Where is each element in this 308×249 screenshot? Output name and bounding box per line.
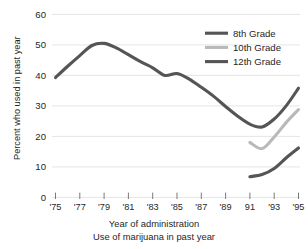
y-axis-ticks: 60 50 40 30 20 10 0 bbox=[35, 9, 46, 203]
x-axis-title: Year of administration bbox=[109, 218, 199, 229]
y-axis-title: Percent who used in past year bbox=[12, 36, 22, 160]
y-tick-label: 10 bbox=[35, 161, 46, 172]
x-tick-label: '93 bbox=[268, 202, 280, 212]
figure-caption: Use of marijuana in past year bbox=[93, 231, 215, 242]
x-tick-label: '95 bbox=[293, 202, 305, 212]
y-tick-label: 30 bbox=[35, 100, 46, 111]
x-tick-label: 91 bbox=[245, 202, 255, 212]
legend-label-10th-grade: 10th Grade bbox=[233, 42, 281, 53]
x-axis-ticks: '75 '77 '79 '81 '83 '85 '87 '89 91 '93 '… bbox=[50, 202, 305, 212]
chart-canvas: 60 50 40 30 20 10 0 Percent who used in … bbox=[0, 0, 308, 249]
y-tick-label: 50 bbox=[35, 39, 46, 50]
legend: 8th Grade 10th Grade 12th Grade bbox=[205, 28, 281, 67]
x-tick-label: '81 bbox=[122, 202, 134, 212]
y-tick-label: 40 bbox=[35, 70, 46, 81]
x-tick-label: '79 bbox=[98, 202, 110, 212]
x-tick-label: '85 bbox=[171, 202, 183, 212]
legend-label-12th-grade: 12th Grade bbox=[233, 56, 281, 67]
legend-label-8th-grade: 8th Grade bbox=[233, 28, 276, 39]
x-tick-label: '77 bbox=[74, 202, 86, 212]
x-tick-label: '83 bbox=[147, 202, 159, 212]
marijuana-use-line-chart-figure: 60 50 40 30 20 10 0 Percent who used in … bbox=[0, 0, 308, 249]
y-tick-label: 60 bbox=[35, 9, 46, 20]
x-tick-label: '89 bbox=[220, 202, 232, 212]
x-tick-label: '75 bbox=[50, 202, 62, 212]
y-tick-label: 0 bbox=[41, 192, 46, 203]
x-tick-label: '87 bbox=[195, 202, 207, 212]
x-axis-tickmarks bbox=[56, 193, 299, 199]
y-tick-label: 20 bbox=[35, 131, 46, 142]
series-line-10th-grade bbox=[250, 110, 299, 149]
series-line-8th-grade bbox=[250, 148, 299, 177]
